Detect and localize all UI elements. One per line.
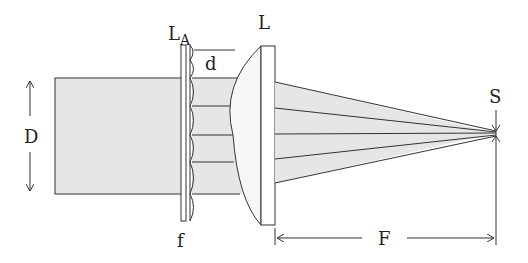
- field-plate: [181, 45, 186, 221]
- spot-label: S: [489, 86, 501, 107]
- pitch-label: d: [205, 53, 217, 74]
- lens-label: L: [258, 12, 270, 33]
- focal-length-label: F: [378, 228, 391, 249]
- focusing-lens: [230, 46, 275, 225]
- converging-beam: [275, 82, 496, 183]
- lenslet-focal-label: f: [177, 230, 185, 251]
- lenslet-array-label: LA: [168, 23, 191, 48]
- optical-diagram: LA L d D f F S: [0, 0, 528, 263]
- beam-diameter-label: D: [24, 126, 38, 147]
- input-beam: [55, 78, 182, 194]
